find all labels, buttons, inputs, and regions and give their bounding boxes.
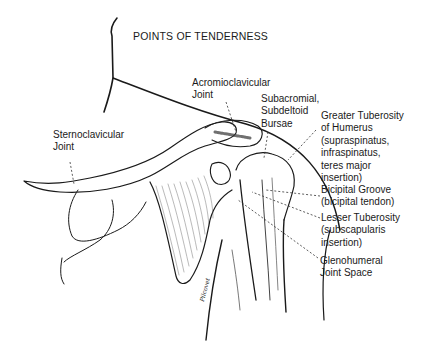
label-greater-tuberosity: Greater Tuberosity of Humerus (supraspin… (321, 110, 404, 184)
leader-acromioclavicular (226, 102, 236, 132)
label-line: insertion) (321, 237, 400, 249)
leader-subacromial (264, 132, 268, 158)
label-line: Subacromial, (261, 93, 319, 105)
label-subacromial-bursae: Subacromial, Subdeltoid Bursae (261, 93, 319, 130)
label-line: Glenohumeral (320, 255, 383, 267)
label-bicipital-groove: Bicipital Groove (bicipital tendon) (321, 184, 394, 209)
leader-glenohumeral (238, 200, 318, 258)
label-line: Acromioclavicular (192, 77, 270, 89)
label-acromioclavicular-joint: Acromioclavicular Joint (192, 77, 270, 102)
label-sternoclavicular-joint: Sternoclavicular Joint (53, 129, 124, 154)
humeral-head (236, 153, 294, 220)
label-line: Bursae (261, 118, 319, 130)
label-line: (bicipital tendon) (321, 196, 394, 208)
label-line: Joint (53, 141, 124, 153)
bicipital-tendon (262, 180, 270, 300)
rib (64, 200, 114, 262)
arm-outline-left-inner (232, 250, 240, 310)
humerus-shaft-left (240, 180, 256, 300)
label-line: Bicipital Groove (321, 184, 394, 196)
label-line: Sternoclavicular (53, 129, 124, 141)
diagram-title: POINTS OF TENDERNESS (133, 30, 268, 42)
label-line: Subdeltoid (261, 105, 319, 117)
label-line: Joint (192, 89, 270, 101)
label-line: (subscapularis (321, 224, 400, 236)
label-line: Lesser Tuberosity (321, 212, 400, 224)
rib (61, 258, 64, 284)
label-line: Joint Space (320, 267, 383, 279)
label-line: of Humerus (321, 122, 404, 134)
label-line: infraspinatus, (321, 147, 404, 159)
label-glenohumeral-joint-space: Glenohumeral Joint Space (320, 255, 383, 280)
label-line: insertion) (321, 172, 404, 184)
label-line: (supraspinatus, (321, 135, 404, 147)
rib (69, 190, 146, 241)
coracoid-process (210, 162, 230, 184)
label-lesser-tuberosity: Lesser Tuberosity (subscapularis inserti… (321, 212, 400, 249)
neck-outline (104, 18, 117, 112)
label-line: teres major (321, 160, 404, 172)
label-line: Greater Tuberosity (321, 110, 404, 122)
